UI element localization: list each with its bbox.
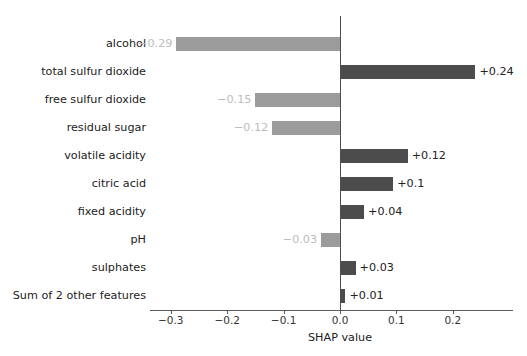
bar-value-label: +0.1 — [397, 170, 424, 198]
bar-row: volatile acidity +0.12 — [0, 142, 527, 170]
feature-label: pH — [0, 226, 146, 254]
feature-label: citric acid — [0, 170, 146, 198]
bar-row: citric acid +0.1 — [0, 170, 527, 198]
x-tick-label: 0.0 — [310, 314, 370, 326]
bar-row: total sulfur dioxide +0.24 — [0, 58, 527, 86]
bar-row: Sum of 2 other features +0.01 — [0, 282, 527, 310]
x-tick-label: 0.2 — [423, 314, 483, 326]
x-axis-spine — [150, 310, 513, 311]
feature-label: residual sugar — [0, 114, 146, 142]
bar-alcohol — [176, 37, 340, 51]
x-tick-label: −0.2 — [197, 314, 257, 326]
bar-value-label: +0.01 — [349, 282, 383, 310]
bar-value-label: +0.12 — [412, 142, 446, 170]
bar-row: residual sugar −0.12 — [0, 114, 527, 142]
bar-value-label: +0.03 — [360, 254, 394, 282]
bar-row: alcohol −0.29 — [0, 30, 527, 58]
bar-value-label: +0.24 — [479, 58, 513, 86]
feature-label: Sum of 2 other features — [0, 282, 146, 310]
zero-reference-line — [340, 16, 341, 310]
bar-value-label: +0.04 — [368, 198, 402, 226]
shap-bar-chart: alcohol −0.29 total sulfur dioxide +0.24… — [0, 0, 527, 356]
bar-ph — [321, 233, 340, 247]
bar-fixed-acidity — [340, 205, 364, 219]
feature-label: fixed acidity — [0, 198, 146, 226]
bar-row: free sulfur dioxide −0.15 — [0, 86, 527, 114]
bar-total-sulfur-dioxide — [340, 65, 475, 79]
x-tick-label: −0.1 — [254, 314, 314, 326]
bar-volatile-acidity — [340, 149, 408, 163]
x-axis-title: SHAP value — [240, 331, 440, 344]
bar-residual-sugar — [272, 121, 340, 135]
feature-label: total sulfur dioxide — [0, 58, 146, 86]
bar-value-label: −0.12 — [212, 114, 268, 142]
bar-free-sulfur-dioxide — [255, 93, 340, 107]
x-tick-label: 0.1 — [366, 314, 426, 326]
bar-value-label: −0.15 — [195, 86, 251, 114]
bar-row: fixed acidity +0.04 — [0, 198, 527, 226]
feature-label: volatile acidity — [0, 142, 146, 170]
bar-sulphates — [340, 261, 356, 275]
x-tick-label: −0.3 — [141, 314, 201, 326]
feature-label: free sulfur dioxide — [0, 86, 146, 114]
bar-citric-acid — [340, 177, 393, 191]
bar-row: pH −0.03 — [0, 226, 527, 254]
bar-value-label: −0.03 — [261, 226, 317, 254]
bar-value-label: −0.29 — [116, 30, 172, 58]
bar-row: sulphates +0.03 — [0, 254, 527, 282]
feature-label: sulphates — [0, 254, 146, 282]
